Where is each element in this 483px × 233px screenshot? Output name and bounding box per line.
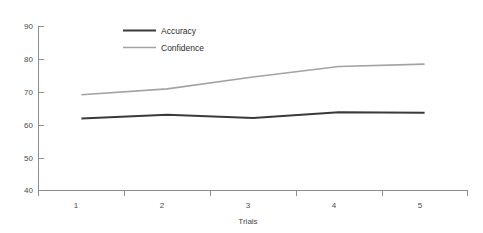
line-chart: 90 80 70 60 50 40 1 2 3 4 5 Trials [0, 0, 483, 233]
x-tick-label: 2 [160, 201, 165, 210]
legend-label-accuracy: Accuracy [161, 26, 197, 36]
chart-canvas: 90 80 70 60 50 40 1 2 3 4 5 Trials [0, 0, 483, 233]
x-tick-label: 1 [74, 201, 79, 210]
y-tick-label: 40 [24, 186, 33, 195]
y-tick-label: 50 [24, 154, 33, 163]
y-tick-label: 90 [24, 22, 33, 31]
x-tick-label: 4 [332, 201, 337, 210]
x-tick-label: 5 [418, 201, 423, 210]
y-tick-label: 70 [24, 88, 33, 97]
chart-background [0, 0, 483, 233]
legend-label-confidence: Confidence [161, 43, 204, 53]
x-tick-label: 3 [246, 201, 251, 210]
y-tick-label: 60 [24, 121, 33, 130]
y-tick-label: 80 [24, 55, 33, 64]
x-axis-title: Trials [238, 217, 257, 226]
